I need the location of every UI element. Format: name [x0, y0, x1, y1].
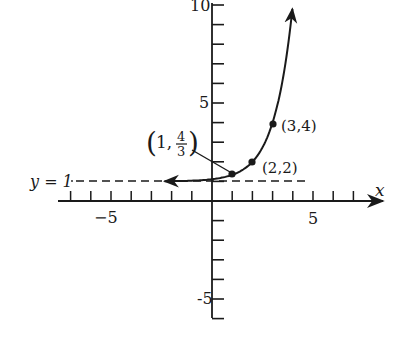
exponential-curve [232, 9, 292, 175]
y-tick-label-5: 5 [199, 93, 209, 112]
x-axis [58, 191, 383, 201]
point-3-label: (3,4) [281, 117, 317, 135]
asymptote-label: y = 1 [29, 172, 73, 191]
point-3-4 [269, 120, 276, 127]
point-1-label: ( 1, 4 3 ) [146, 126, 199, 159]
point-1-fraction-num: 4 [177, 129, 185, 144]
y-axis [212, 3, 224, 319]
point-1-4-3 [228, 170, 235, 177]
point-1-x-value: 1, [156, 132, 172, 152]
point-2-2 [248, 158, 255, 165]
x-tick-label-neg5: −5 [94, 208, 118, 227]
exponential-graph: x −5 5 10 5 -5 y = 1 ( 1, 4 3 ) (2,2) (3… [0, 0, 395, 350]
y-axis-ticks [212, 5, 224, 319]
y-tick-label-neg5: -5 [197, 289, 213, 308]
x-axis-label: x [375, 180, 385, 200]
y-tick-label-10: 10 [190, 0, 210, 15]
point-2-label: (2,2) [262, 159, 298, 177]
point-1-fraction-den: 3 [177, 144, 185, 159]
asymptote-label-text: y = 1 [29, 172, 73, 191]
point-1-close-paren: ) [188, 126, 199, 159]
x-tick-label-5: 5 [308, 209, 318, 228]
